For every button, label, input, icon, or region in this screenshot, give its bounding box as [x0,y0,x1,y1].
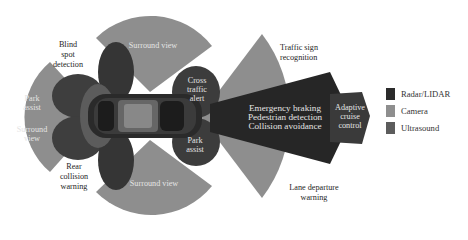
legend-item-camera: Camera [386,103,450,119]
svg-text:Parkassist: Parkassist [186,136,204,154]
svg-text:Surround view: Surround view [130,179,179,188]
camera-swatch-icon [386,105,395,117]
legend-item-radar: Radar/LIDAR [386,86,450,102]
svg-text:Emergency brakingPedestrian de: Emergency brakingPedestrian detectionCol… [248,103,323,131]
ultrasound-swatch-icon [386,122,395,134]
svg-text:Traffic signrecognition: Traffic signrecognition [280,43,318,62]
legend-label: Ultrasound [401,123,439,133]
svg-text:Crosstrafficalert: Crosstrafficalert [187,76,207,103]
car-image [88,94,202,138]
legend: Radar/LIDAR Camera Ultrasound [386,86,450,137]
legend-label: Camera [401,106,428,116]
legend-label: Radar/LIDAR [401,89,450,99]
svg-text:Blindspotdetection: Blindspotdetection [53,40,83,69]
svg-text:Surround view: Surround view [129,41,178,50]
legend-item-ultrasound: Ultrasound [386,120,450,136]
svg-text:Lane departurewarning: Lane departurewarning [289,183,339,202]
svg-text:Rearcollisionwarning: Rearcollisionwarning [60,162,88,191]
svg-text:Parkassist: Parkassist [23,94,41,112]
radar-swatch-icon [386,88,395,100]
